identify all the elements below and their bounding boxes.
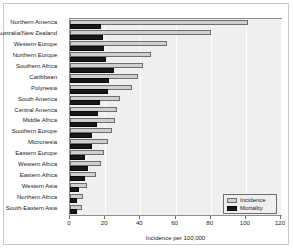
bar-mortality bbox=[70, 122, 97, 127]
category-label: Western Asia bbox=[22, 183, 57, 190]
x-tick-label: 80 bbox=[200, 220, 220, 227]
x-tick-mark bbox=[280, 216, 281, 219]
bar-mortality bbox=[70, 46, 104, 51]
bar-group bbox=[70, 30, 281, 41]
bar-mortality bbox=[70, 209, 77, 214]
bar-group bbox=[70, 106, 281, 117]
category-label: Central America bbox=[14, 107, 57, 114]
bar-group bbox=[70, 63, 281, 74]
bar-group bbox=[70, 150, 281, 161]
bar-mortality bbox=[70, 24, 101, 29]
bar-mortality bbox=[70, 89, 108, 94]
bar-group bbox=[70, 182, 281, 193]
category-label: Southern Africa bbox=[16, 63, 57, 70]
category-label: Northern Africa bbox=[17, 194, 57, 201]
bar-mortality bbox=[70, 57, 106, 62]
x-tick-mark bbox=[175, 216, 176, 219]
bar-group bbox=[70, 95, 281, 106]
bar-group bbox=[70, 84, 281, 95]
x-tick-label: 0 bbox=[59, 220, 79, 227]
category-label: Eastern Europe bbox=[15, 150, 57, 157]
x-tick-mark bbox=[69, 216, 70, 219]
bar-mortality bbox=[70, 198, 77, 203]
legend: Incidence Mortality bbox=[223, 194, 277, 214]
bar-group bbox=[70, 52, 281, 63]
plot-area bbox=[69, 18, 282, 216]
x-tick-label: 100 bbox=[235, 220, 255, 227]
bar-mortality bbox=[70, 78, 109, 83]
bar-mortality bbox=[70, 155, 85, 160]
x-tick-label: 40 bbox=[129, 220, 149, 227]
bar-group bbox=[70, 161, 281, 172]
bar-mortality bbox=[70, 35, 103, 40]
bar-group bbox=[70, 19, 281, 30]
bar-mortality bbox=[70, 166, 88, 171]
category-label: Polynesia bbox=[31, 85, 57, 92]
bar-group bbox=[70, 171, 281, 182]
figure-frame: Northern AmericaAustralia/New ZealandWes… bbox=[3, 3, 289, 245]
bar-group bbox=[70, 139, 281, 150]
category-label: Northern Europe bbox=[13, 52, 57, 59]
x-tick-label: 60 bbox=[165, 220, 185, 227]
category-label: Middle Africa bbox=[23, 117, 57, 124]
bar-group bbox=[70, 41, 281, 52]
category-label: Micronesia bbox=[28, 139, 57, 146]
category-label: South America bbox=[18, 96, 57, 103]
x-tick-label: 20 bbox=[94, 220, 114, 227]
bar-mortality bbox=[70, 100, 100, 105]
x-tick-mark bbox=[104, 216, 105, 219]
legend-item-mortality: Mortality bbox=[227, 205, 273, 212]
chart-screenshot: Northern AmericaAustralia/New ZealandWes… bbox=[0, 0, 293, 249]
category-label: Caribbean bbox=[29, 74, 57, 81]
category-label: Western Africa bbox=[18, 161, 57, 168]
bar-mortality bbox=[70, 68, 114, 73]
bar-mortality bbox=[70, 187, 79, 192]
x-tick-label: 120 bbox=[270, 220, 290, 227]
legend-label-mortality: Mortality bbox=[240, 205, 263, 212]
x-axis-title: Incidence per 100,000 bbox=[69, 235, 282, 241]
mortality-swatch-icon bbox=[227, 206, 237, 211]
bar-mortality bbox=[70, 111, 98, 116]
category-label: South-Eastern Asia bbox=[6, 205, 57, 212]
bar-mortality bbox=[70, 176, 85, 181]
category-label: Western Europe bbox=[14, 41, 57, 48]
legend-item-incidence: Incidence bbox=[227, 197, 273, 204]
category-label: Southern Europe bbox=[12, 128, 57, 135]
category-label: Northern America bbox=[10, 19, 57, 26]
bar-rows bbox=[70, 19, 281, 215]
bar-group bbox=[70, 117, 281, 128]
bar-mortality bbox=[70, 144, 92, 149]
x-tick-mark bbox=[245, 216, 246, 219]
incidence-swatch-icon bbox=[227, 198, 237, 203]
bar-mortality bbox=[70, 133, 92, 138]
x-tick-mark bbox=[210, 216, 211, 219]
x-tick-mark bbox=[139, 216, 140, 219]
category-label: Eastern Africa bbox=[20, 172, 57, 179]
bar-group bbox=[70, 128, 281, 139]
gridline bbox=[281, 19, 282, 215]
bar-group bbox=[70, 73, 281, 84]
category-label: Australia/New Zealand bbox=[0, 30, 57, 37]
legend-label-incidence: Incidence bbox=[240, 197, 266, 204]
